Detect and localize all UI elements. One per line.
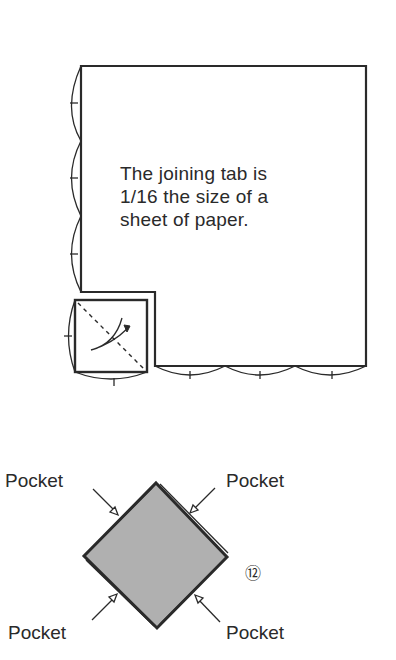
pocket-label-bottom-right: Pocket <box>226 622 284 644</box>
pocket-label-top-right: Pocket <box>226 470 284 492</box>
left-edge-scallops <box>70 66 81 292</box>
note-line-2: 1/16 the size of a <box>120 185 360 208</box>
joining-tab <box>64 300 147 386</box>
pocket-label-top-left: Pocket <box>5 470 63 492</box>
step-number: ⑫ <box>245 560 261 584</box>
joining-tab-note: The joining tab is 1/16 the size of a sh… <box>120 162 360 231</box>
note-line-3: sheet of paper. <box>120 208 360 231</box>
note-line-1: The joining tab is <box>120 162 360 185</box>
diagram-canvas <box>0 0 396 660</box>
pocket-label-bottom-left: Pocket <box>8 622 66 644</box>
bottom-edge-scallops <box>155 366 366 379</box>
